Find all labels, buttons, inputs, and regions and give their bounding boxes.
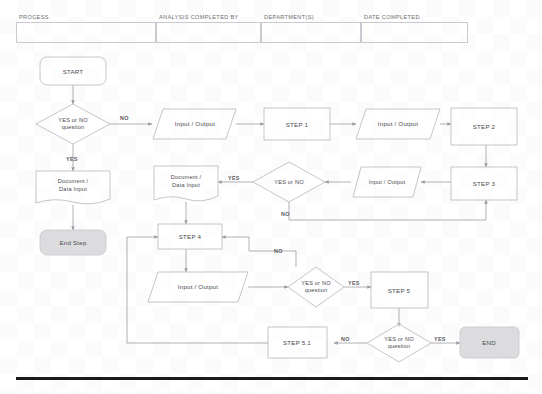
edge-label-q2-no: NO xyxy=(281,211,290,217)
node-doc2-label-line1: Document / xyxy=(171,174,202,180)
edge-label-q2-yes: YES xyxy=(228,175,240,181)
flowchart-canvas: NO YES YES NO NO YES NO YES START YES or… xyxy=(0,44,542,364)
node-end-label: END xyxy=(482,339,496,346)
node-q1-label-line2: question xyxy=(62,124,85,130)
node-io1-input-output[interactable]: Input / Output xyxy=(153,109,236,139)
header-column-analysis-completed-by: ANALYSIS COMPLETED BY xyxy=(156,13,261,41)
edge-label-q1-no: NO xyxy=(120,115,129,121)
node-doc1-label-line1: Document / xyxy=(58,178,89,184)
node-step5[interactable]: STEP 5 xyxy=(371,272,428,308)
header-label-departments: DEPARTMENT(S) xyxy=(264,13,314,21)
node-start[interactable]: START xyxy=(40,57,106,85)
node-step3[interactable]: STEP 3 xyxy=(451,167,517,200)
flowchart-svg: NO YES YES NO NO YES NO YES START YES or… xyxy=(0,44,542,364)
node-q1-label-line1: YES or NO xyxy=(58,117,88,123)
node-io3-input-output[interactable]: Input / Output xyxy=(353,167,421,197)
node-q1-decision[interactable]: YES or NO question xyxy=(36,104,110,144)
node-doc2-document[interactable]: Document / Data Input xyxy=(154,166,218,201)
header-label-process: PROCESS xyxy=(19,13,49,21)
node-q3-label-line2: question xyxy=(305,287,328,293)
node-step2-label: STEP 2 xyxy=(473,123,496,130)
node-doc2-label-line2: Data Input xyxy=(172,182,200,188)
form-header-table: PROCESS ANALYSIS COMPLETED BY DEPARTMENT… xyxy=(16,13,508,41)
node-io2-label: Input / Output xyxy=(378,120,418,127)
node-end[interactable]: END xyxy=(460,327,519,358)
node-io1-label: Input / Output xyxy=(175,120,215,127)
connector-q2-no-to-step3 xyxy=(289,200,486,220)
edge-label-q3-yes: YES xyxy=(348,280,360,286)
node-io2-input-output[interactable]: Input / Output xyxy=(356,109,440,139)
node-q2-label-line1: YES or NO xyxy=(274,179,304,185)
node-io4-input-output[interactable]: Input / Output xyxy=(148,272,248,302)
document-page: PROCESS ANALYSIS COMPLETED BY DEPARTMENT… xyxy=(0,0,542,394)
node-step5-label: STEP 5 xyxy=(388,287,411,294)
node-step2[interactable]: STEP 2 xyxy=(451,108,517,145)
node-io4-label: Input / Output xyxy=(178,283,218,290)
node-q2-decision[interactable]: YES or NO xyxy=(253,162,325,202)
node-start-label: START xyxy=(63,68,84,75)
edge-label-q1-yes: YES xyxy=(66,156,78,162)
header-label-date-completed: DATE COMPLETED xyxy=(364,13,420,21)
node-step4-label: STEP 4 xyxy=(179,233,202,240)
node-doc1-label-line2: Data Input xyxy=(59,186,87,192)
edge-label-q4-yes: YES xyxy=(434,336,446,342)
node-step51[interactable]: STEP 5.1 xyxy=(268,327,327,358)
header-column-date-completed: DATE COMPLETED xyxy=(361,13,468,41)
node-step3-label: STEP 3 xyxy=(473,180,496,187)
node-step51-label: STEP 5.1 xyxy=(283,339,311,346)
node-step4[interactable]: STEP 4 xyxy=(158,224,222,249)
node-doc1-document[interactable]: Document / Data Input xyxy=(36,171,110,204)
node-step1[interactable]: STEP 1 xyxy=(264,108,330,140)
header-column-departments: DEPARTMENT(S) xyxy=(261,13,361,41)
node-q4-label-line2: question xyxy=(388,343,411,349)
header-input-departments[interactable] xyxy=(261,22,361,43)
bottom-divider-rule xyxy=(16,377,528,380)
node-io3-label: Input / Output xyxy=(369,179,406,185)
node-step1-label: STEP 1 xyxy=(286,121,309,128)
header-input-date-completed[interactable] xyxy=(361,22,468,43)
node-q3-decision[interactable]: YES or NO question xyxy=(288,267,344,307)
node-q4-decision[interactable]: YES or NO question xyxy=(367,324,431,362)
connector-q3-no-to-step4 xyxy=(222,237,296,267)
node-q3-label-line1: YES or NO xyxy=(301,280,331,286)
header-column-process: PROCESS xyxy=(16,13,156,41)
node-q4-label-line1: YES or NO xyxy=(384,336,414,342)
edge-label-q3-no: NO xyxy=(274,248,283,254)
header-input-analysis-completed-by[interactable] xyxy=(156,22,261,43)
header-label-analysis-completed-by: ANALYSIS COMPLETED BY xyxy=(159,13,239,21)
node-end-step-label: End Step xyxy=(59,239,86,246)
node-end-step[interactable]: End Step xyxy=(40,230,106,255)
header-input-process[interactable] xyxy=(16,22,156,43)
edge-label-q4-no: NO xyxy=(341,336,350,342)
